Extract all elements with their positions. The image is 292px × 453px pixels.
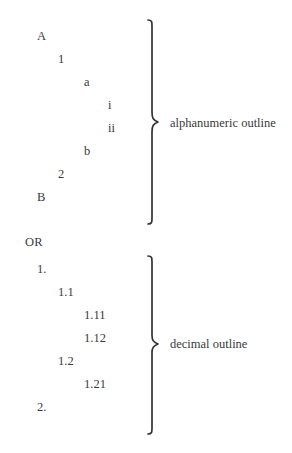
- outline-diagram-page: A 1 a i ii b 2 B alphanumeric outline OR…: [0, 0, 292, 453]
- outline-item: 1.2: [58, 355, 74, 368]
- outline-item: A: [37, 30, 46, 43]
- outline-item: b: [84, 145, 90, 158]
- outline-item: 2.: [37, 401, 46, 414]
- outline-item: 1.: [37, 263, 46, 276]
- outline-item: 1.1: [58, 286, 74, 299]
- alphanumeric-brace-wrapper: [143, 18, 167, 226]
- outline-item: B: [37, 191, 45, 204]
- outline-item: 1.11: [84, 309, 105, 322]
- alphanumeric-outline-caption: alphanumeric outline: [170, 116, 276, 131]
- outline-item: ii: [108, 122, 115, 135]
- outline-item: 1.12: [84, 332, 106, 345]
- decimal-brace-wrapper: [143, 254, 167, 436]
- curly-brace-icon: [143, 254, 167, 436]
- alphanumeric-outline-group: A 1 a i ii b 2 B alphanumeric outline: [0, 0, 292, 230]
- decimal-outline-caption: decimal outline: [170, 337, 247, 352]
- curly-brace-icon: [143, 18, 167, 226]
- outline-item: i: [108, 99, 111, 112]
- outline-item: a: [84, 76, 90, 89]
- outline-item: 1: [58, 53, 64, 66]
- decimal-outline-group: 1. 1.1 1.11 1.12 1.2 1.21 2. decimal out…: [0, 233, 292, 453]
- outline-item: 1.21: [84, 378, 106, 391]
- outline-item: 2: [58, 168, 64, 181]
